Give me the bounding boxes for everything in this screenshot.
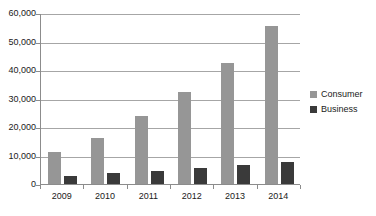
- y-axis-tick-mark: [36, 14, 40, 15]
- bar-chart: 010,00020,00030,00040,00050,00060,000 20…: [0, 0, 376, 216]
- bar-consumer-2009: [48, 152, 61, 184]
- y-axis-tick-mark: [36, 43, 40, 44]
- y-axis-tick-mark: [36, 100, 40, 101]
- chart-legend: ConsumerBusiness: [310, 88, 363, 118]
- legend-swatch-icon: [310, 91, 317, 98]
- bar-consumer-2011: [135, 116, 148, 184]
- y-axis-tick-label: 10,000: [2, 152, 36, 161]
- y-axis: 010,00020,00030,00040,00050,00060,000: [0, 0, 36, 216]
- x-axis-tick-label: 2014: [258, 192, 298, 201]
- y-axis-tick-label: 20,000: [2, 123, 36, 132]
- x-axis-tick-mark: [213, 185, 214, 189]
- bar-business-2010: [107, 173, 120, 184]
- bar-business-2009: [64, 176, 77, 184]
- y-axis-tick-label: 0: [2, 180, 36, 189]
- y-axis-tick-label: 30,000: [2, 95, 36, 104]
- y-axis-tick-mark: [36, 185, 40, 186]
- bar-business-2014: [281, 162, 294, 185]
- y-axis-tick-label: 50,000: [2, 38, 36, 47]
- bar-group: [128, 14, 171, 184]
- y-axis-tick-label: 40,000: [2, 66, 36, 75]
- legend-swatch-icon: [310, 106, 317, 113]
- y-axis-tick-label: 60,000: [2, 9, 36, 18]
- bar-group: [258, 14, 301, 184]
- legend-item-label: Business: [321, 105, 358, 114]
- bar-consumer-2014: [265, 26, 278, 184]
- bar-group: [214, 14, 257, 184]
- x-axis-tick-label: 2009: [42, 192, 82, 201]
- plot-area: [40, 14, 300, 185]
- legend-item-label: Consumer: [321, 90, 363, 99]
- bar-group: [171, 14, 214, 184]
- x-axis-tick-label: 2013: [215, 192, 255, 201]
- x-axis-tick-mark: [40, 185, 41, 189]
- x-axis-tick-mark: [170, 185, 171, 189]
- bar-consumer-2010: [91, 138, 104, 184]
- bar-business-2011: [151, 171, 164, 184]
- y-axis-tick-mark: [36, 128, 40, 129]
- x-axis-tick-label: 2011: [128, 192, 168, 201]
- x-axis-tick-label: 2010: [85, 192, 125, 201]
- legend-item-business[interactable]: Business: [310, 103, 363, 116]
- x-axis-tick-mark: [257, 185, 258, 189]
- x-axis-tick-mark: [127, 185, 128, 189]
- bar-group: [41, 14, 84, 184]
- legend-item-consumer[interactable]: Consumer: [310, 88, 363, 101]
- x-axis-tick-mark: [83, 185, 84, 189]
- bar-consumer-2013: [221, 63, 234, 184]
- bar-business-2012: [194, 168, 207, 184]
- bar-business-2013: [237, 165, 250, 184]
- x-axis-tick-label: 2012: [172, 192, 212, 201]
- y-axis-tick-mark: [36, 71, 40, 72]
- bar-consumer-2012: [178, 92, 191, 184]
- bar-group: [84, 14, 127, 184]
- y-axis-tick-mark: [36, 157, 40, 158]
- x-axis-tick-mark: [300, 185, 301, 189]
